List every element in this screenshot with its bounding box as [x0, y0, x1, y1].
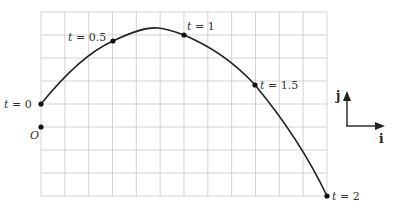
point-label: t = 0.5 [68, 31, 106, 44]
j-label: j [335, 89, 340, 103]
trajectory-point [181, 32, 186, 37]
point-label: t = 1.5 [260, 79, 298, 92]
unit-vector-legend: j i [335, 89, 385, 146]
i-arrow-icon [375, 122, 385, 130]
origin-point [38, 124, 43, 129]
trajectory-diagram: t = 0t = 0.5t = 1t = 1.5t = 2 O j i [0, 0, 399, 211]
trajectory-point [110, 38, 115, 43]
trajectory-points: t = 0t = 0.5t = 1t = 1.5t = 2 [4, 20, 360, 203]
origin-label: O [30, 129, 39, 142]
i-label: i [379, 132, 384, 146]
j-arrow-icon [343, 91, 351, 101]
point-label: t = 2 [332, 190, 360, 203]
trajectory-point [38, 101, 43, 106]
point-label: t = 1 [187, 20, 215, 33]
point-label: t = 0 [4, 98, 32, 111]
trajectory-point [252, 82, 257, 87]
trajectory-point [324, 193, 329, 198]
